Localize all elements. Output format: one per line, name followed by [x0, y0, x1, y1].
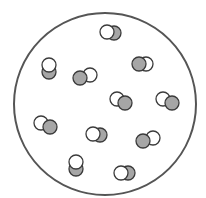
white-atom — [100, 25, 114, 39]
diatomic-molecule — [86, 127, 107, 142]
gray-atom — [165, 96, 179, 110]
diatomic-molecule — [34, 116, 57, 134]
white-atom — [114, 166, 128, 180]
molecules-group — [34, 25, 179, 180]
gray-atom — [43, 120, 57, 134]
gray-atom — [73, 71, 87, 85]
white-atom — [69, 155, 83, 169]
diatomic-molecule — [73, 68, 97, 85]
diatomic-molecule — [136, 131, 160, 148]
diatomic-molecule — [114, 166, 135, 180]
molecule-diagram — [0, 0, 206, 198]
diatomic-molecule — [42, 58, 56, 79]
diagram-canvas — [0, 0, 206, 198]
diatomic-molecule — [110, 92, 132, 110]
diatomic-molecule — [156, 92, 179, 110]
diatomic-molecule — [100, 25, 121, 40]
white-atom — [86, 127, 100, 141]
gray-atom — [136, 134, 150, 148]
white-atom — [42, 58, 56, 72]
diatomic-molecule — [69, 155, 83, 176]
gray-atom — [118, 96, 132, 110]
gray-atom — [132, 57, 146, 71]
diatomic-molecule — [132, 57, 153, 71]
